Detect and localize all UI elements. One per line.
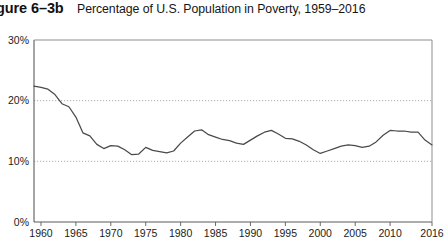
x-tick-label-2005: 2005 [344, 227, 368, 239]
y-tick-label-0: 0% [14, 216, 29, 228]
x-tick-label-1970: 1970 [99, 227, 123, 239]
x-tick-label-group: 1960196519701975198019851990199520002005… [29, 227, 444, 239]
x-tick-label-1990: 1990 [239, 227, 263, 239]
chart-canvas: 0%10%20%30% 1960196519701975198019851990… [0, 22, 447, 252]
y-tick-label-20: 20% [8, 94, 29, 106]
plot-frame [34, 40, 432, 222]
x-tick-label-1985: 1985 [204, 227, 228, 239]
line-chart-svg: 0%10%20%30% 1960196519701975198019851990… [0, 22, 447, 252]
figure-number-label: gure 6–3b [0, 0, 64, 16]
figure-title-bar: gure 6–3b Percentage of U.S. Population … [0, 0, 447, 22]
poverty-rate-line [34, 86, 432, 155]
y-tick-label-30: 30% [8, 34, 29, 46]
x-tick-label-2010: 2010 [378, 227, 402, 239]
gridline-group [34, 101, 432, 162]
x-tick-group [41, 222, 432, 226]
x-tick-label-1995: 1995 [274, 227, 298, 239]
poverty-rate-figure: gure 6–3b Percentage of U.S. Population … [0, 0, 447, 252]
x-tick-label-1975: 1975 [134, 227, 158, 239]
y-tick-label-group: 0%10%20%30% [8, 34, 29, 228]
x-tick-label-2016: 2016 [420, 227, 444, 239]
figure-title-text: Percentage of U.S. Population in Poverty… [77, 2, 365, 16]
x-tick-label-2000: 2000 [309, 227, 333, 239]
x-tick-label-1960: 1960 [29, 227, 53, 239]
x-tick-label-1980: 1980 [169, 227, 193, 239]
x-tick-label-1965: 1965 [64, 227, 88, 239]
y-tick-label-10: 10% [8, 155, 29, 167]
